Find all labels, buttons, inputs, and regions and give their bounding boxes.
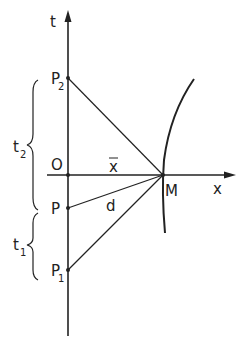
svg-text:2: 2 — [20, 149, 26, 160]
point-p1-dot — [66, 268, 70, 272]
point-p-label: P — [51, 200, 60, 218]
point-o-dot — [66, 173, 70, 177]
point-m-dot — [161, 173, 165, 177]
t-axis-label: t — [50, 13, 56, 31]
segment-xbar-label: x — [109, 158, 118, 176]
point-p-dot — [66, 206, 70, 210]
svg-text:x: x — [109, 158, 118, 176]
segment-d-label: d — [106, 197, 116, 215]
svg-text:1: 1 — [20, 247, 26, 258]
svg-text:1: 1 — [58, 273, 64, 284]
spacetime-diagram: t x P 2 O P P 1 M x d t 2 t 1 — [0, 0, 249, 351]
point-m-label: M — [165, 182, 178, 200]
point-p2-dot — [66, 76, 70, 80]
svg-text:t: t — [13, 236, 19, 254]
point-o-label: O — [51, 156, 63, 174]
svg-text:t: t — [13, 138, 19, 156]
x-axis-label: x — [213, 180, 222, 198]
svg-text:2: 2 — [58, 81, 64, 92]
